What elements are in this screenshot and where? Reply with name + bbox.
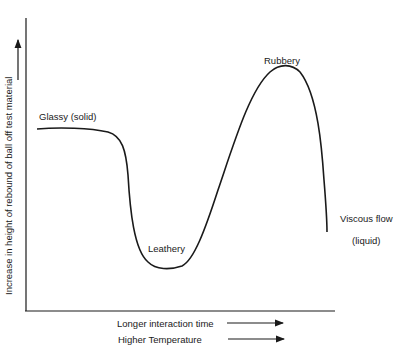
x-label-time: Longer interaction time bbox=[117, 319, 214, 329]
label-rubbery: Rubbery bbox=[264, 56, 300, 66]
x-label-temperature: Higher Temperature bbox=[118, 335, 202, 345]
label-liquid: (liquid) bbox=[352, 236, 381, 246]
y-axis-label: Increase in height of rebound of ball of… bbox=[3, 77, 14, 295]
label-leathery: Leathery bbox=[148, 244, 185, 254]
label-viscous-flow: Viscous flow bbox=[340, 214, 393, 224]
rebound-curve bbox=[37, 66, 327, 269]
label-glassy: Glassy (solid) bbox=[39, 112, 97, 122]
chart-canvas bbox=[0, 0, 411, 355]
